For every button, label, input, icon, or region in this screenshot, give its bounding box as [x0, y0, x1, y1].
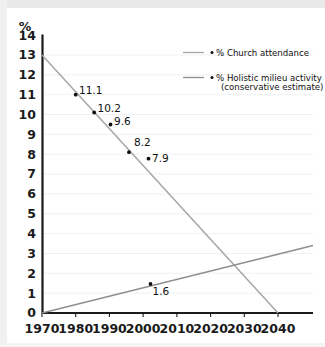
y-tick-2: 2	[27, 266, 36, 281]
data-label-1-6: 1.6	[153, 285, 170, 297]
chart-container: % 14 13 12 11 10 9 8 7 6 5 4 3 2 1 0 197…	[0, 0, 325, 347]
series-line-church-attendance	[42, 55, 278, 313]
x-tick-1990: 1990	[92, 321, 127, 336]
x-tick-2000: 2000	[126, 321, 161, 336]
y-tick-3: 3	[27, 246, 36, 261]
data-point-9-6	[109, 123, 113, 127]
data-point-10-2	[92, 111, 96, 115]
y-tick-9: 9	[27, 127, 36, 142]
legend-label-church-attendance: % Church attendance	[216, 48, 309, 58]
data-point-8-2	[127, 150, 131, 154]
legend-bullet-church-attendance	[211, 51, 214, 54]
data-point-11-1	[74, 93, 78, 97]
x-tick-1970: 1970	[25, 321, 60, 336]
data-label-9-6: 9.6	[114, 115, 131, 127]
series-line-holistic-milieu	[42, 246, 313, 314]
y-tick-14: 14	[19, 28, 37, 43]
y-tick-6: 6	[27, 186, 36, 201]
y-tick-4: 4	[27, 226, 36, 241]
x-tick-2040: 2040	[261, 321, 296, 336]
chart-legend: % Church attendance % Holistic milieu ac…	[183, 48, 323, 93]
y-tick-7: 7	[27, 166, 36, 181]
data-label-7-9: 7.9	[152, 152, 169, 164]
y-tick-8: 8	[27, 147, 36, 162]
data-label-10-2: 10.2	[98, 102, 121, 114]
x-tick-2020: 2020	[193, 321, 228, 336]
y-axis-tick-labels: 14 13 12 11 10 9 8 7 6 5 4 3 2 1 0	[19, 28, 37, 321]
y-tick-10: 10	[19, 107, 37, 122]
y-tick-11: 11	[19, 87, 36, 102]
legend-sublabel-holistic-milieu: (conservative estimate)	[221, 82, 323, 92]
y-tick-13: 13	[19, 47, 36, 62]
x-tick-2030: 2030	[227, 321, 262, 336]
data-label-8-2: 8.2	[134, 136, 151, 148]
y-tick-0: 0	[27, 305, 36, 320]
x-tick-1980: 1980	[58, 321, 93, 336]
y-tick-1: 1	[27, 286, 36, 301]
data-label-11-1: 11.1	[79, 84, 102, 96]
y-tick-5: 5	[27, 206, 36, 221]
y-tick-12: 12	[19, 67, 36, 82]
legend-label-holistic-milieu: % Holistic milieu activity	[216, 73, 322, 83]
data-point-labels: 11.1 10.2 9.6 8.2 7.9 1.6	[79, 84, 170, 297]
legend-bullet-holistic-milieu	[211, 76, 214, 79]
line-chart: % 14 13 12 11 10 9 8 7 6 5 4 3 2 1 0 197…	[0, 0, 325, 347]
x-axis-tick-labels: 1970 1980 1990 2000 2010 2020 2030 2040	[25, 321, 296, 336]
x-tick-2010: 2010	[160, 321, 195, 336]
data-point-7-9	[147, 157, 151, 161]
